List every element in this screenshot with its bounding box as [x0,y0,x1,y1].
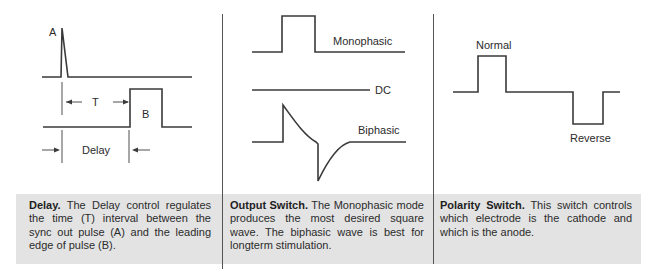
output-switch-diagram: Monophasic DC Biphasic [220,0,434,190]
monophasic-label: Monophasic [333,35,393,47]
normal-label: Normal [476,39,511,51]
pulse-b-waveform [43,89,192,127]
caption-output-switch: Output Switch. The Monophasic mode produ… [230,199,424,253]
delay-left-arrow [54,148,60,153]
pulse-a-label: A [49,26,57,38]
sync-pulse-a-waveform [42,28,192,77]
pulse-b-label: B [142,108,149,120]
caption-polarity-switch-title: Polarity Switch. [440,199,525,211]
delay-right-arrow [132,148,138,153]
polarity-waveform [453,56,620,124]
caption-delay: Delay. The Delay control regulates the t… [29,199,211,253]
caption-output-switch-title: Output Switch. [230,199,308,211]
dc-label: DC [375,84,391,96]
interval-t-label: T [92,96,99,108]
delay-label: Delay [82,144,111,156]
biphasic-waveform [252,105,406,181]
polarity-switch-diagram: Normal Reverse [430,0,651,190]
reverse-label: Reverse [570,132,611,144]
caption-delay-title: Delay. [29,199,61,211]
biphasic-label: Biphasic [358,124,400,136]
delay-diagram: A T B Delay [0,0,222,190]
caption-polarity-switch: Polarity Switch. This switch controls wh… [440,199,632,239]
